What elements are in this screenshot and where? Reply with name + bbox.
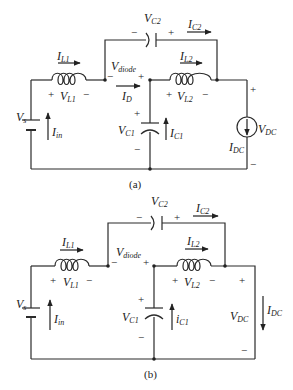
circuit-figure: IL1 + VL1 − Vdiode − + ID VC2 − + IC2 IL… [0,0,293,390]
polarity-minus: − [202,88,208,100]
polarity-plus: + [168,26,174,38]
polarity-plus: + [143,256,149,268]
polarity-plus: + [138,293,144,305]
label-vc2: VC2 [151,194,168,209]
label-vdc: VDC [230,309,249,324]
capacitor-c2-icon [146,33,156,47]
label-vdiode: Vdiode [116,245,142,260]
label-ic2: IC2 [195,201,209,216]
node-dot [152,357,156,361]
label-iin: Iin [53,312,64,327]
polarity-minus: − [209,274,215,286]
polarity-minus: − [83,88,89,100]
polarity-plus: + [48,88,54,100]
label-vc1: VC1 [118,123,135,138]
polarity-minus: − [131,26,137,38]
label-vl2: VL2 [177,89,193,104]
label-vl1: VL1 [60,89,76,104]
polarity-plus: + [166,88,172,100]
label-id: ID [121,89,132,104]
polarity-minus: − [86,274,92,286]
caption-b: (b) [144,368,157,381]
polarity-minus: − [250,158,256,170]
inductor-l1-icon [55,259,89,270]
circuit-a: IL1 + VL1 − Vdiode − + ID VC2 − + IC2 IL… [16,11,277,191]
polarity-minus: − [136,211,142,223]
label-il2: IL2 [186,234,199,249]
capacitor-c2-icon [151,216,162,230]
node-dot [215,78,219,82]
label-ic1: iC1 [176,312,189,327]
label-vc1: VC1 [122,310,139,325]
label-ic1: IC1 [169,126,183,141]
inductor-l2-icon [170,73,211,84]
polarity-plus: + [50,274,56,286]
node-dot [223,264,227,268]
polarity-minus: − [241,344,247,356]
polarity-minus: − [107,70,113,82]
node-dot [152,264,156,268]
polarity-plus: + [138,70,144,82]
inductor-l2-icon [177,259,211,270]
polarity-plus: + [172,274,178,286]
label-il1: IL1 [61,235,74,250]
label-vc2: VC2 [144,11,161,26]
polarity-minus: − [111,256,117,268]
label-vs: Vs [16,110,26,125]
polarity-plus: + [250,83,256,95]
label-iin: Iin [51,125,62,140]
caption-a: (a) [129,178,142,191]
label-vs: Vs [16,297,26,312]
node-dot [148,78,152,82]
circuit-b: IL1 + VL1 − Vdiode − + VC2 − + IC2 IL2 +… [16,194,283,381]
node-dot [148,167,152,171]
label-vdc: VDC [258,122,277,137]
label-ic2: IC2 [187,17,201,32]
polarity-minus: − [138,331,144,343]
label-il2: IL2 [179,49,192,64]
label-vdiode: Vdiode [111,59,137,74]
current-source-icon [237,117,257,137]
label-vl1: VL1 [63,275,79,290]
label-idc: IDC [266,303,283,318]
polarity-minus: − [134,143,140,155]
polarity-plus: + [134,107,140,119]
label-il1: IL1 [56,49,69,64]
label-vl2: VL2 [184,275,200,290]
polarity-plus: + [239,274,245,286]
polarity-plus: + [174,211,180,223]
node-dot [106,264,110,268]
label-idc: IDC [228,140,245,155]
inductor-l1-icon [52,73,86,84]
